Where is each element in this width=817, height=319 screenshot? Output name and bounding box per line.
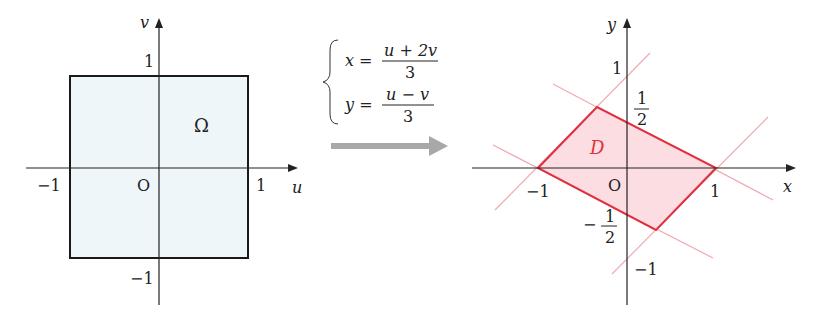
tick-u-neg: −1 [37,176,61,195]
tick-y-neg-half-numerator: 1 [605,207,615,226]
origin-label: O [137,176,150,195]
tick-v-neg: −1 [130,269,154,288]
mapping-arrow [331,136,448,156]
origin-label-right: O [608,176,621,195]
diagram-canvas: v u O −1 1 1 −1 Ω x = u + 2v 3 y = u − v… [0,0,817,319]
tick-x-neg: −1 [526,182,550,201]
tick-y-pos: 1 [612,59,622,78]
u-axis-label: u [292,178,302,197]
tick-u-pos: 1 [256,176,266,195]
region-d-label: D [589,137,605,158]
tick-y-neg: −1 [634,260,658,279]
eq1-lhs: x = [345,51,373,70]
tick-y-neg-half: − 1 2 [583,207,617,247]
tick-y-half: 1 2 [634,89,649,129]
tick-y-neg-half-sign: − [583,215,596,234]
eq1-numerator: u + 2v [384,41,437,60]
eq2-denominator: 3 [403,107,413,126]
eq1-denominator: 3 [405,63,415,82]
tick-y-neg-half-denominator: 2 [605,228,615,247]
eq2-numerator: u − v [386,85,429,104]
tick-x-pos: 1 [710,182,720,201]
v-axis-label: v [140,13,149,32]
left-brace [323,40,338,124]
tick-v-pos: 1 [144,52,154,71]
x-axis-label: x [783,177,792,196]
omega-label: Ω [194,115,209,136]
tick-y-half-numerator: 1 [637,89,647,108]
right-plot: y x O −1 1 1 −1 1 2 − 1 2 D [472,15,794,305]
transform-equations: x = u + 2v 3 y = u − v 3 [323,40,438,126]
eq2-lhs: y = [344,95,373,114]
y-axis-label: y [606,15,617,34]
left-plot: v u O −1 1 1 −1 Ω [26,13,302,305]
tick-y-half-denominator: 2 [637,110,647,129]
